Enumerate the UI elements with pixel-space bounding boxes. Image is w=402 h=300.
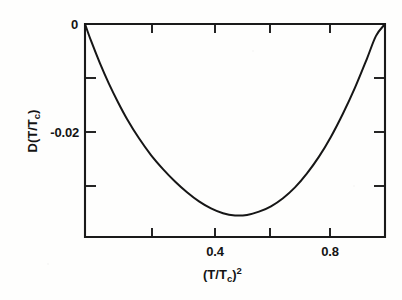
x-axis-ticks-top [152,24,330,33]
y-tick-label-0: 0 [71,17,78,32]
x-title-exponent: 2 [237,265,242,276]
x-title-numerator: T [207,267,215,282]
y-title-denominator: T [25,119,40,127]
y-axis-ticks-right [374,78,385,186]
data-series-group [85,24,385,216]
x-tick-label-1: 0.8 [321,244,338,259]
y-axis-title: D(T/Tc) [25,110,42,153]
x-tick-label-0: 0.4 [206,244,224,259]
plot-frame [85,24,385,237]
x-axis-title-text: (T/Tc)2 [203,265,242,284]
y-axis-title-text: D(T/Tc) [25,110,42,153]
x-axis-ticks-bottom [152,228,330,237]
y-tick-label-1: -0.02 [50,125,79,140]
y-title-numerator: T [25,131,40,139]
y-title-name: D [25,143,40,152]
figure-container: 0 -0.02 0.4 0.8 (T/Tc)2 D(T/Tc) [0,0,402,300]
x-title-denominator: T [219,267,227,282]
y-axis-ticks-left [85,78,96,186]
chart-plot: 0 -0.02 0.4 0.8 (T/Tc)2 D(T/Tc) [0,0,402,300]
x-axis-title: (T/Tc)2 [203,265,242,284]
axis-frame-path [85,24,385,237]
y-title-close: ) [25,110,40,114]
data-curve [85,24,385,216]
